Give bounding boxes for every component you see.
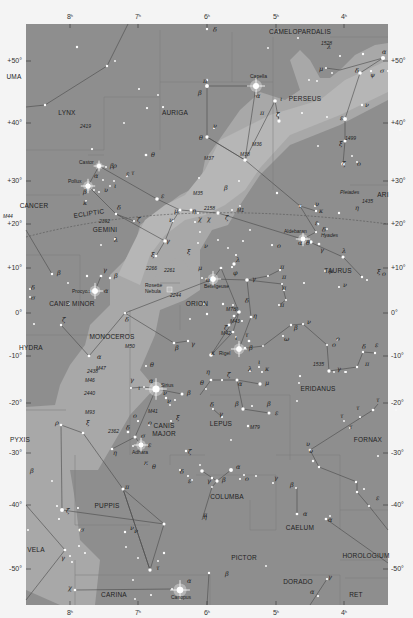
star (163, 523, 166, 526)
greek-letter-label: δ (245, 297, 249, 305)
star (77, 507, 79, 509)
greek-letter-label: ε (126, 170, 130, 178)
greek-letter-label: γ (130, 376, 134, 384)
constellation-label: UMA (6, 73, 22, 80)
star (179, 209, 182, 212)
deep-sky-object: 1435 (362, 198, 373, 204)
deep-sky-object: M44 (3, 213, 13, 219)
star (211, 477, 213, 479)
greek-letter-label: δ (355, 67, 359, 75)
star (205, 135, 208, 138)
deep-sky-object: M41 (148, 408, 158, 414)
greek-letter-label: δ (125, 316, 129, 324)
star (143, 386, 145, 388)
star (198, 177, 200, 179)
star (238, 180, 240, 182)
deep-sky-object: 2261 (163, 267, 175, 273)
dec-label-right: -30° (391, 449, 404, 456)
greek-letter-label: ε (315, 219, 319, 227)
greek-letter-label: ζ (225, 214, 229, 222)
star (74, 589, 77, 592)
star-name-label: Sirius (161, 382, 174, 388)
star (374, 352, 376, 354)
greek-letter-label: τ (245, 331, 249, 339)
star (220, 267, 223, 270)
star (255, 475, 257, 477)
constellation-label: PICTOR (231, 554, 257, 561)
object-label: 1499 (345, 135, 356, 141)
star (189, 318, 191, 320)
greek-letter-label: α (206, 276, 211, 284)
greek-letter-label: α (236, 463, 241, 471)
star (290, 324, 292, 326)
star (221, 379, 223, 381)
greek-letter-label: β (82, 188, 87, 196)
greek-letter-label: ο (148, 419, 152, 427)
greek-letter-label: τ (131, 169, 135, 177)
object-label: M36 (252, 141, 262, 147)
greek-letter-label: α (94, 172, 99, 180)
constellation-label: PUPPIS (94, 502, 120, 509)
star (174, 399, 176, 401)
object-label: 2440 (83, 390, 95, 396)
greek-letter-label: ε (340, 114, 344, 122)
star (285, 299, 287, 301)
greek-letter-label: ι (235, 334, 238, 342)
star (86, 275, 88, 277)
greek-letter-label: ο (336, 335, 340, 343)
star (130, 387, 132, 389)
object-label: 2419 (79, 123, 91, 129)
object-label: 2362 (107, 428, 119, 434)
star (56, 505, 58, 507)
greek-letter-label: τ (298, 202, 302, 210)
star (132, 445, 134, 447)
greek-letter-label: γ (166, 237, 170, 245)
star (200, 469, 204, 473)
constellation-label: COLUMBA (210, 493, 244, 500)
star (150, 594, 152, 596)
greek-letter-label: θ (152, 463, 156, 471)
greek-letter-label: ε (235, 305, 239, 313)
star (399, 129, 401, 131)
constellation-label: CANIS MINOR (49, 300, 95, 307)
dec-label-right: -40° (391, 501, 404, 508)
star (138, 88, 140, 90)
constellation-label: PYXIS (10, 436, 31, 443)
star (222, 303, 224, 305)
greek-letter-label: δ (213, 26, 217, 34)
deep-sky-object: M50 (125, 343, 135, 349)
deep-sky-object: M35 (193, 190, 203, 196)
star (88, 355, 91, 358)
star (333, 371, 335, 373)
star-name-label: Pollux (68, 178, 82, 184)
greek-letter-label: ι (138, 384, 141, 392)
deep-sky-object: M43 (230, 318, 240, 324)
constellation-label: CAELUM (286, 524, 314, 531)
object-label: M41 (148, 408, 158, 414)
star (60, 424, 63, 427)
star (157, 560, 159, 562)
star (325, 518, 328, 521)
greek-letter-label: ζ (276, 111, 280, 119)
svg-text:Pleiades: Pleiades (340, 189, 360, 195)
greek-letter-label: ζ (62, 316, 66, 324)
constellation-label: PERSEUS (289, 95, 322, 102)
greek-letter-label: κ (210, 349, 216, 357)
star (91, 148, 93, 150)
deep-sky-object: 2438 (86, 368, 98, 374)
object-label: M43 (230, 318, 240, 324)
star (239, 478, 241, 480)
star (315, 231, 317, 233)
star (229, 468, 233, 472)
greek-letter-label: β (223, 184, 228, 192)
star (277, 119, 280, 122)
star-name-label: Aldebaran (284, 228, 307, 234)
star (312, 460, 314, 462)
star (303, 282, 305, 284)
star (215, 479, 218, 482)
constellation-label: FORNAX (354, 436, 383, 443)
svg-text:Nebula: Nebula (145, 288, 161, 294)
greek-letter-label: α (256, 92, 261, 100)
greek-letter-label: ε (148, 441, 152, 449)
greek-letter-label: ε (275, 409, 279, 417)
